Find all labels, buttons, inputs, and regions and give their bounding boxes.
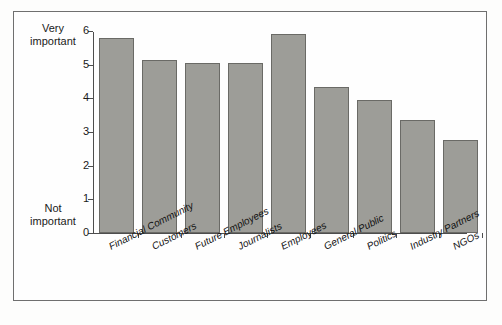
bar [314, 87, 349, 233]
y-tick-label: 0 [83, 225, 89, 239]
y-axis-low-label: Not important [18, 202, 88, 228]
bar [400, 120, 435, 233]
y-tick-label: 2 [83, 158, 89, 172]
y-tick-label: 5 [83, 57, 89, 71]
bar-chart-figure: Very important Not important 0123456 Fin… [0, 0, 502, 325]
y-axis-high-label: Very important [18, 22, 88, 48]
y-axis-high-label-line1: Very [18, 22, 88, 35]
y-tick-label: 4 [83, 90, 89, 104]
plot-area: 0123456 [93, 26, 471, 239]
y-axis-low-label-line2: important [18, 215, 88, 228]
bar [99, 38, 134, 233]
y-tick-label: 1 [83, 191, 89, 205]
bar [357, 100, 392, 233]
y-tick-label: 6 [83, 23, 89, 37]
y-tick-label: 3 [83, 124, 89, 138]
bar [271, 34, 306, 233]
bar [142, 60, 177, 233]
x-tick-mark [482, 233, 483, 238]
y-axis-low-label-line1: Not [18, 202, 88, 215]
y-axis-high-label-line2: important [18, 35, 88, 48]
bar [228, 63, 263, 233]
x-axis-line [93, 233, 467, 234]
y-axis-line [93, 32, 94, 234]
